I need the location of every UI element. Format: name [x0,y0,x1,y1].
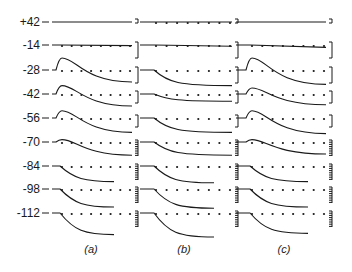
current-trace [242,213,308,233]
trace-row [52,187,138,207]
baseline-dot [282,213,284,215]
baseline-dot [261,213,263,215]
baseline-dot [251,166,253,168]
current-trace [146,118,232,132]
panel-c [236,19,332,233]
baseline-dot [166,142,168,144]
baseline-dot [119,142,121,144]
baseline-dot [100,94,102,96]
baseline-dot [302,213,304,215]
baseline-dot [251,45,253,47]
baseline-dot [80,142,82,144]
scale-bar [329,91,332,103]
scale-bar [329,19,332,23]
baseline-dot [229,70,231,72]
scale-bar [235,115,238,127]
baseline-dot [100,45,102,47]
baseline-dot [261,189,263,191]
trace-figure: +42-14-28-42-56-70-84-98-112 (a)(b)(c) [0,0,352,272]
panel-captions: (a)(b)(c) [84,243,290,255]
baseline-dot [208,189,210,191]
scale-bar [235,42,238,58]
trace-row [52,42,138,58]
baseline-dot [313,166,315,168]
baseline-dot [129,45,131,47]
baseline-dot [272,118,274,120]
trace-row [236,211,332,233]
trace-row [140,211,238,237]
baseline-dot [155,45,157,47]
baseline-dot [261,166,263,168]
baseline-dot [176,189,178,191]
baseline-dot [71,118,73,120]
scale-bar [329,187,332,203]
panel-caption: (b) [177,243,191,255]
baseline-dot [110,142,112,144]
baseline-dot [292,94,294,96]
baseline-dot [229,142,231,144]
baseline-dot [110,70,112,72]
baseline-dot [176,45,178,47]
baseline-dot [90,94,92,96]
baseline-dot [166,22,168,24]
row-label: -56 [23,111,41,125]
baseline-dot [119,94,121,96]
trace-row [140,42,238,58]
baseline-dot [229,94,231,96]
row-label: -112 [17,206,40,220]
baseline-dot [110,45,112,47]
baseline-dot [197,45,199,47]
baseline-dot [166,189,168,191]
trace-row [236,164,332,182]
baseline-dot [218,166,220,168]
baseline-dot [292,166,294,168]
trace-row [52,58,138,83]
baseline-dot [71,142,73,144]
baseline-dot [272,142,274,144]
baseline-dot [323,70,325,72]
current-trace [52,140,132,156]
scale-bar [135,187,138,203]
baseline-dot [176,70,178,72]
baseline-dot [61,94,63,96]
baseline-dot [197,94,199,96]
trace-row [52,111,138,133]
baseline-dot [302,118,304,120]
baseline-dot [129,213,131,215]
baseline-dot [129,142,131,144]
baseline-dot [90,70,92,72]
current-trace [146,213,214,237]
baseline-dot [313,213,315,215]
baseline-dot [272,94,274,96]
trace-row [140,91,238,103]
scale-bar [135,211,138,227]
trace-row [236,111,332,134]
baseline-dot [323,94,325,96]
baseline-dot [129,166,131,168]
baseline-dot [282,70,284,72]
scale-bar [135,19,138,23]
baseline-dot [313,118,315,120]
trace-row [52,86,138,106]
baseline-dot [229,118,231,120]
baseline-dot [61,142,63,144]
baseline-dot [71,213,73,215]
baseline-dot [119,213,121,215]
baseline-dot [155,94,157,96]
row-label: +42 [20,15,41,29]
baseline-dot [251,118,253,120]
baseline-dot [90,213,92,215]
baseline-dot [166,45,168,47]
baseline-dot [282,189,284,191]
baseline-dot [129,118,131,120]
baseline-dot [61,118,63,120]
current-trace [146,189,214,208]
baseline-dot [155,70,157,72]
panels [52,19,332,237]
baseline-dot [90,118,92,120]
baseline-dot [119,118,121,120]
current-trace [146,166,214,183]
scale-bar [235,91,238,103]
baseline-dot [90,45,92,47]
baseline-dot [176,166,178,168]
